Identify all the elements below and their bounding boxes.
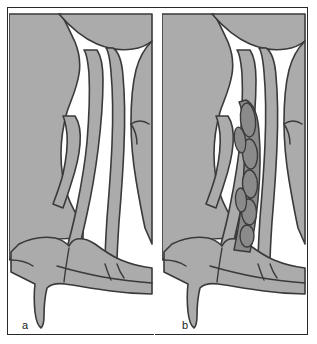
panel-divider <box>154 9 155 335</box>
panel-a <box>9 8 154 334</box>
panel-label-b: b <box>182 320 188 331</box>
panel-label-a: a <box>22 320 28 331</box>
polyp <box>240 225 254 247</box>
figure-frame: a b <box>7 7 308 335</box>
panel-b <box>162 8 307 334</box>
anatomical-figure: a b <box>0 0 317 344</box>
